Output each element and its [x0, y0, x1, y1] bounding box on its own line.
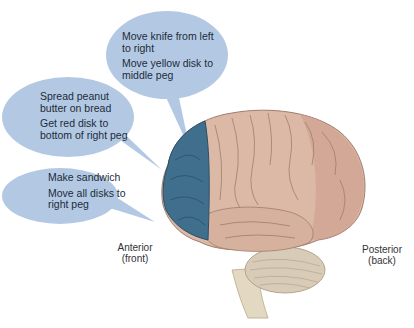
bubble-bottom-line-2: Move all disks to right peg [48, 188, 138, 211]
speech-bubble-bottom: Make sandwich Move all disks to right pe… [48, 172, 138, 215]
bubble-middle-line-1: Spread peanut butter on bread [40, 91, 135, 114]
bubble-top-line-2: Move yellow disk to middle peg [122, 58, 222, 81]
prefrontal-cortex-diagram: Move knife from left to right Move yello… [0, 0, 414, 328]
posterior-subtext: (back) [350, 255, 414, 266]
anterior-text: Anterior [100, 242, 170, 253]
speech-bubble-middle: Spread peanut butter on bread Get red di… [40, 91, 135, 145]
bubble-middle-line-2: Get red disk to bottom of right peg [40, 118, 135, 141]
posterior-text: Posterior [350, 244, 414, 255]
anterior-label: Anterior (front) [100, 242, 170, 264]
posterior-label: Posterior (back) [350, 244, 414, 266]
bubble-top-line-1: Move knife from left to right [122, 31, 222, 54]
speech-bubble-top: Move knife from left to right Move yello… [122, 31, 222, 85]
anterior-subtext: (front) [100, 253, 170, 264]
bubble-bottom-line-1: Make sandwich [48, 172, 138, 184]
